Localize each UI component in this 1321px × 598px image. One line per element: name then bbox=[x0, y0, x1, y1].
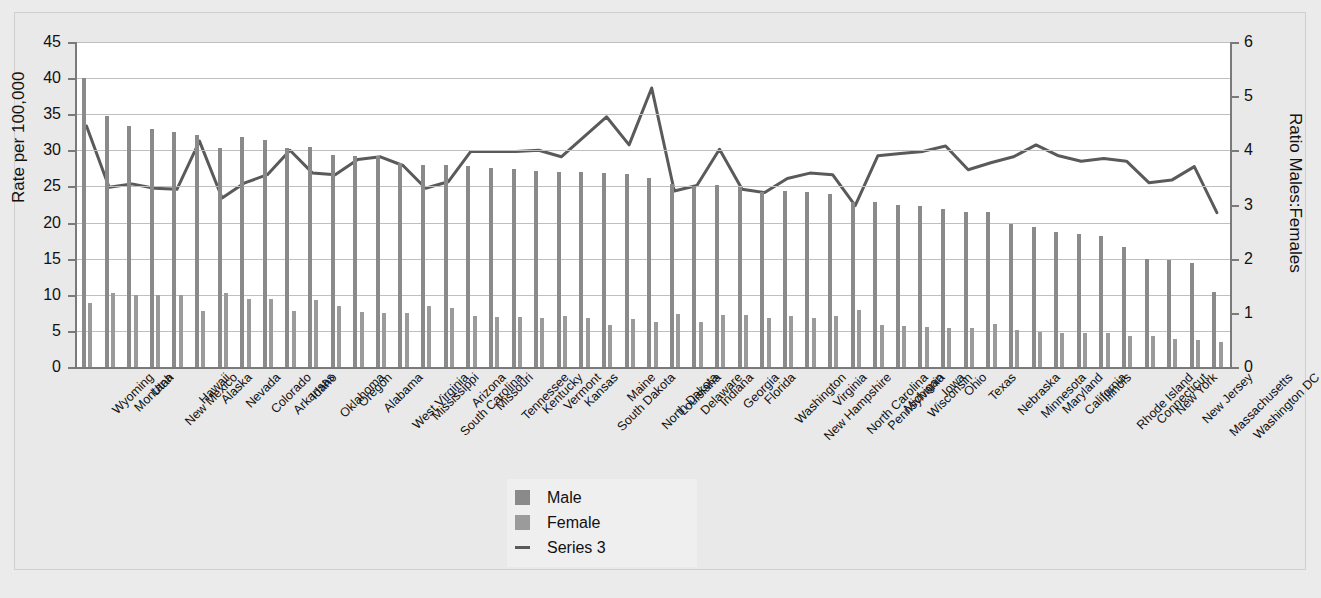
legend-label: Series 3 bbox=[547, 539, 606, 557]
legend-item: Female bbox=[515, 510, 689, 535]
x-axis-category-labels: WyomingMontanaUtahNew MexicoHawaiiAlaska… bbox=[75, 371, 1232, 471]
y-axis-right-tick-label: 2 bbox=[1244, 251, 1284, 267]
bar-female bbox=[179, 295, 183, 367]
bar-female bbox=[473, 316, 477, 367]
y-axis-left-tick-label: 40 bbox=[21, 70, 61, 86]
bar-male bbox=[715, 185, 719, 367]
bar-female bbox=[360, 312, 364, 367]
y-axis-right-tick-label: 4 bbox=[1244, 142, 1284, 158]
legend-label: Male bbox=[547, 489, 582, 507]
bar-female bbox=[857, 310, 861, 367]
bar-male bbox=[331, 155, 335, 367]
bar-female bbox=[1060, 333, 1064, 367]
bar-female bbox=[721, 315, 725, 367]
chart-legend: MaleFemaleSeries 3 bbox=[507, 479, 697, 567]
y-axis-left-tick-label: 10 bbox=[21, 287, 61, 303]
bar-female bbox=[563, 316, 567, 367]
y-axis-left-tickmark bbox=[68, 42, 75, 44]
bar-female bbox=[1151, 336, 1155, 367]
bar-male bbox=[127, 126, 131, 367]
bar-male bbox=[602, 173, 606, 367]
legend-square-icon bbox=[515, 515, 530, 530]
bar-male bbox=[489, 168, 493, 367]
y-axis-right-tickmark bbox=[1232, 150, 1239, 152]
bar-female bbox=[495, 317, 499, 367]
legend-square-icon bbox=[515, 490, 530, 505]
y-axis-right-tick-label: 6 bbox=[1244, 34, 1284, 50]
bar-female bbox=[1083, 333, 1087, 367]
gridline bbox=[77, 150, 1230, 151]
bar-female bbox=[111, 293, 115, 367]
gridline bbox=[77, 186, 1230, 187]
bar-female bbox=[1106, 333, 1110, 367]
bar-male bbox=[444, 165, 448, 367]
bar-female bbox=[970, 328, 974, 367]
bar-male bbox=[353, 156, 357, 367]
bar-male bbox=[896, 205, 900, 367]
x-axis-tick-label: Idaho bbox=[308, 371, 339, 402]
x-axis-tick-label: Illinois bbox=[1100, 371, 1134, 405]
bar-female bbox=[292, 311, 296, 367]
bar-male bbox=[82, 78, 86, 367]
bar-male bbox=[557, 172, 561, 367]
bar-male bbox=[964, 212, 968, 367]
bar-male bbox=[1032, 227, 1036, 367]
bar-female bbox=[518, 317, 522, 367]
y-axis-left-tickmark bbox=[68, 259, 75, 261]
bar-female bbox=[314, 300, 318, 367]
bar-female bbox=[450, 308, 454, 367]
y-axis-left-tick-label: 15 bbox=[21, 251, 61, 267]
bar-female bbox=[880, 325, 884, 367]
bar-female bbox=[699, 322, 703, 368]
bar-female bbox=[427, 306, 431, 367]
bar-female bbox=[654, 322, 658, 368]
bar-male bbox=[851, 202, 855, 367]
bar-female bbox=[269, 299, 273, 367]
bar-female bbox=[247, 299, 251, 367]
bar-female bbox=[224, 293, 228, 367]
y-axis-right-tick-label: 1 bbox=[1244, 305, 1284, 321]
bar-female bbox=[382, 313, 386, 367]
gridline bbox=[77, 78, 1230, 79]
y-axis-left-tickmark bbox=[68, 114, 75, 116]
bar-male bbox=[647, 178, 651, 367]
bar-male bbox=[285, 148, 289, 367]
bar-female bbox=[608, 325, 612, 367]
bar-male bbox=[195, 135, 199, 367]
bar-female bbox=[1015, 330, 1019, 367]
y-axis-right-tickmark bbox=[1232, 367, 1239, 369]
y-axis-left-tick-label: 25 bbox=[21, 178, 61, 194]
bar-female bbox=[201, 311, 205, 367]
bar-male bbox=[105, 116, 109, 367]
bar-male bbox=[466, 166, 470, 368]
bar-male bbox=[421, 165, 425, 367]
y-axis-left-tickmark bbox=[68, 367, 75, 369]
bar-male bbox=[670, 184, 674, 367]
bar-female bbox=[812, 318, 816, 367]
bar-male bbox=[625, 174, 629, 367]
bar-female bbox=[925, 327, 929, 367]
bar-male bbox=[1190, 263, 1194, 367]
bar-female bbox=[540, 318, 544, 367]
x-axis-tick-label: Texas bbox=[987, 371, 1019, 403]
bar-female bbox=[947, 328, 951, 367]
bar-male bbox=[783, 191, 787, 367]
bar-male bbox=[398, 163, 402, 367]
y-axis-right-tickmark bbox=[1232, 259, 1239, 261]
gridline bbox=[77, 223, 1230, 224]
bar-male bbox=[308, 147, 312, 367]
bar-female bbox=[902, 326, 906, 367]
bar-female bbox=[1219, 342, 1223, 367]
y-axis-right-tick-label: 3 bbox=[1244, 197, 1284, 213]
bar-female bbox=[1173, 339, 1177, 367]
bar-male bbox=[918, 206, 922, 367]
bar-female bbox=[767, 318, 771, 367]
bar-male bbox=[760, 192, 764, 368]
bar-male bbox=[1145, 259, 1149, 367]
bar-male bbox=[376, 156, 380, 367]
y-axis-left-tick-label: 5 bbox=[21, 323, 61, 339]
bar-female bbox=[1038, 332, 1042, 367]
bar-female bbox=[631, 319, 635, 367]
bar-male bbox=[172, 132, 176, 367]
gridline bbox=[77, 42, 1230, 43]
